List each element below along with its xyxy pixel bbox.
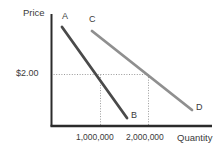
curve-ab <box>62 27 127 118</box>
demand-curve-chart: Price $2.00 1,000,000 2,000,000 Quantity… <box>0 0 224 149</box>
x-tick-label-2m: 2,000,000 <box>126 133 164 142</box>
curve-point-label-c: C <box>89 15 96 24</box>
x-axis-title: Quantity <box>177 133 212 143</box>
curve-cd <box>92 31 192 110</box>
y-axis-title: Price <box>23 8 45 18</box>
curve-point-label-a: A <box>62 12 68 21</box>
curve-point-label-b: B <box>131 111 137 120</box>
y-tick-label-price: $2.00 <box>16 69 39 78</box>
curve-point-label-d: D <box>196 103 203 112</box>
x-tick-label-1m: 1,000,000 <box>76 133 114 142</box>
